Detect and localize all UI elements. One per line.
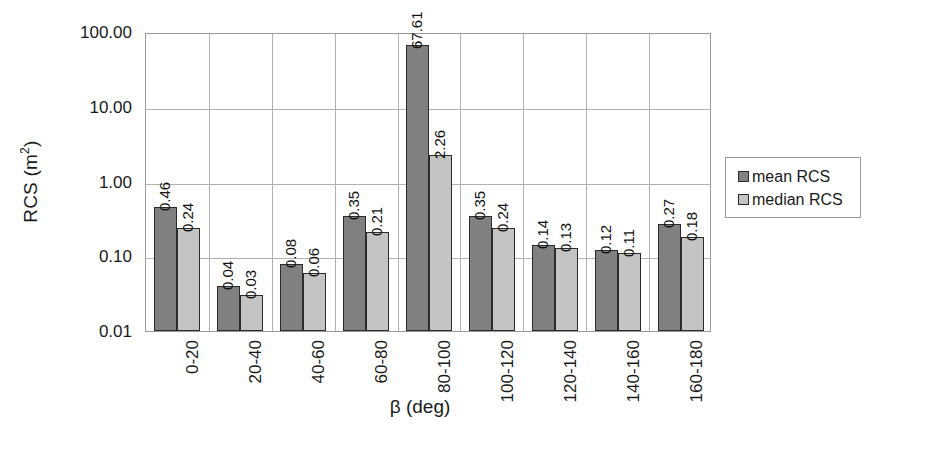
bar-value-label: 0.08 <box>283 238 298 267</box>
bar-median-rcs[interactable] <box>618 253 641 331</box>
bar-value-label: 0.21 <box>369 207 384 236</box>
x-axis-tick-label: 0-20 <box>184 340 201 374</box>
chart-legend: mean RCSmedian RCS <box>725 157 861 218</box>
bar-median-rcs[interactable] <box>177 228 200 331</box>
bar-value-label: 0.24 <box>180 203 195 232</box>
x-axis-tick-label: 120-140 <box>562 340 579 402</box>
bar-value-label: 0.35 <box>472 190 487 219</box>
bar-value-label: 0.18 <box>684 212 699 241</box>
bar-value-label: 0.14 <box>535 220 550 249</box>
x-axis-tick-label: 140-160 <box>625 340 642 402</box>
bar-group: 0.460.24 <box>146 34 209 331</box>
y-axis-title: RCS (m2) <box>18 112 41 252</box>
bar-median-rcs[interactable] <box>429 155 452 331</box>
y-axis-tick-label: 10.00 <box>52 98 132 118</box>
bar-group: 67.612.26 <box>398 34 461 331</box>
bar-value-label: 67.61 <box>409 11 424 49</box>
legend-item-label: mean RCS <box>752 168 830 186</box>
bar-group: 0.140.13 <box>523 34 586 331</box>
x-axis-tick-label: 40-60 <box>310 340 327 383</box>
bar-mean-rcs[interactable] <box>532 245 555 331</box>
legend-item-label: median RCS <box>752 191 843 209</box>
legend-swatch-icon <box>738 194 749 205</box>
bar-value-label: 2.26 <box>432 130 447 159</box>
legend-item[interactable]: median RCS <box>738 188 860 211</box>
bar-median-rcs[interactable] <box>681 237 704 331</box>
bar-value-label: 0.35 <box>346 190 361 219</box>
y-axis-title-text: RCS (m <box>20 154 41 223</box>
bar-value-label: 0.11 <box>621 229 636 257</box>
bar-group: 0.080.06 <box>272 34 335 331</box>
bar-group: 0.040.03 <box>209 34 272 331</box>
bar-mean-rcs[interactable] <box>469 216 492 331</box>
x-axis-tick-label: 20-40 <box>247 340 264 383</box>
bar-median-rcs[interactable] <box>240 295 263 331</box>
y-axis-tick-label: 0.10 <box>52 247 132 267</box>
bar-median-rcs[interactable] <box>366 232 389 331</box>
bar-mean-rcs[interactable] <box>406 45 429 331</box>
legend-item[interactable]: mean RCS <box>738 165 860 188</box>
bar-mean-rcs[interactable] <box>280 264 303 332</box>
bar-value-label: 0.27 <box>661 199 676 228</box>
bar-value-label: 0.24 <box>495 203 510 232</box>
legend-swatch-icon <box>738 171 749 182</box>
bar-median-rcs[interactable] <box>555 248 578 331</box>
bar-value-label: 0.13 <box>558 223 573 252</box>
bar-group: 0.270.18 <box>649 34 712 331</box>
x-axis-tick-label: 100-120 <box>499 340 516 402</box>
y-axis-title-superscript: 2 <box>18 147 32 154</box>
bar-group: 0.350.21 <box>335 34 398 331</box>
bar-median-rcs[interactable] <box>492 228 515 331</box>
bar-mean-rcs[interactable] <box>658 224 681 331</box>
y-axis-tick-label: 0.01 <box>52 322 132 342</box>
bar-value-label: 0.06 <box>306 248 321 277</box>
rcs-bar-chart: RCS (m2) 100.0010.001.000.100.01 0.460.2… <box>0 0 926 452</box>
bar-mean-rcs[interactable] <box>217 286 240 331</box>
x-axis-tick-label: 60-80 <box>373 340 390 383</box>
bar-value-label: 0.12 <box>598 225 613 254</box>
bar-value-label: 0.46 <box>157 182 172 211</box>
y-axis-tick-label: 1.00 <box>52 173 132 193</box>
bar-value-label: 0.04 <box>220 261 235 290</box>
y-axis-title-tail: ) <box>20 141 41 148</box>
bar-mean-rcs[interactable] <box>154 207 177 331</box>
x-axis-tick-label: 160-180 <box>688 340 705 402</box>
bar-value-label: 0.03 <box>243 270 258 299</box>
bar-median-rcs[interactable] <box>303 273 326 331</box>
x-axis-title: β (deg) <box>330 396 510 418</box>
y-axis-tick-labels: 100.0010.001.000.100.01 <box>60 0 140 452</box>
bar-group: 0.120.11 <box>586 34 649 331</box>
plot-area: 0.460.240.040.030.080.060.350.2167.612.2… <box>145 33 711 332</box>
x-axis-tick-label: 80-100 <box>436 340 453 393</box>
bar-mean-rcs[interactable] <box>343 216 366 331</box>
y-axis-tick-label: 100.00 <box>52 23 132 43</box>
bar-group: 0.350.24 <box>460 34 523 331</box>
bar-mean-rcs[interactable] <box>595 250 618 331</box>
